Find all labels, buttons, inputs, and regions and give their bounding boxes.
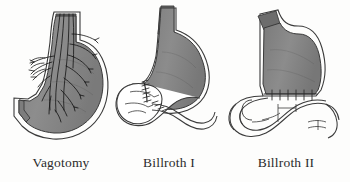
stomach-body bbox=[19, 16, 103, 133]
surgical-procedures-figure: Vagotomy bbox=[0, 0, 350, 182]
jejunal-loop-inner bbox=[240, 98, 326, 130]
jejunal-loop-outer bbox=[230, 96, 339, 137]
panel-vagotomy: Vagotomy bbox=[0, 0, 122, 182]
panel-billroth2: Billroth II bbox=[222, 0, 350, 182]
caption-billroth1: Billroth I bbox=[108, 155, 230, 171]
jejunum-fold-lines bbox=[252, 104, 326, 130]
efferent-limb-terminal bbox=[326, 104, 337, 138]
panel-billroth1: Billroth I bbox=[108, 0, 230, 182]
stomach-remnant bbox=[263, 23, 321, 94]
billroth1-illustration bbox=[108, 0, 230, 155]
billroth2-illustration bbox=[222, 0, 350, 155]
caption-billroth2: Billroth II bbox=[222, 155, 350, 171]
vagotomy-illustration bbox=[0, 0, 122, 155]
caption-vagotomy: Vagotomy bbox=[0, 155, 122, 171]
